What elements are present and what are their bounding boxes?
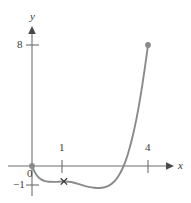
y-tick-label-neg1: −1 — [13, 179, 25, 190]
x-tick-label-1: 1 — [59, 142, 65, 153]
y-axis-arrowhead — [28, 26, 36, 34]
origin-label: 0 — [27, 168, 33, 179]
x-axis-arrowhead — [166, 162, 174, 170]
y-axis-label: y — [30, 11, 35, 22]
y-tick-label-8: 8 — [17, 39, 23, 50]
curve-endpoint — [145, 42, 151, 48]
graph-figure: y x 8 0 −1 1 4 — [0, 0, 191, 203]
x-axis-label: x — [178, 160, 183, 171]
x-tick-label-4: 4 — [145, 142, 151, 153]
tick-marks — [26, 45, 148, 185]
